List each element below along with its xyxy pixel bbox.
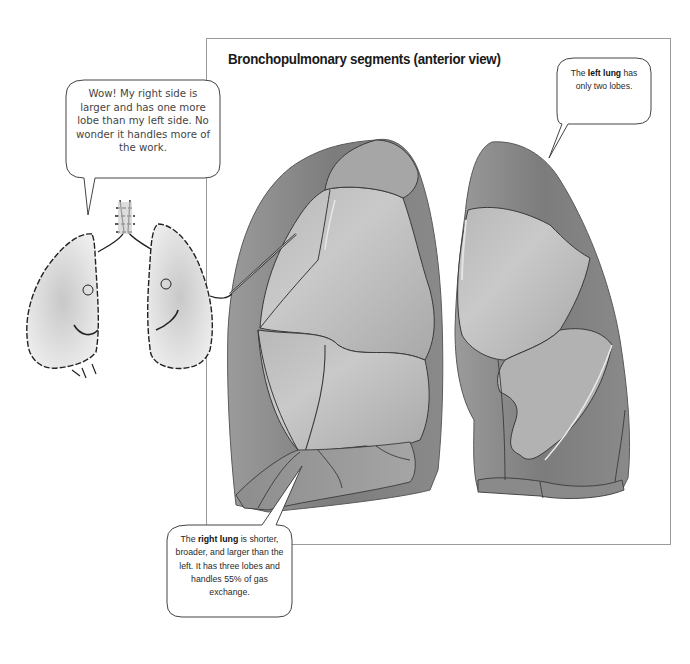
right-lung-callout-prefix: The [180, 533, 197, 544]
left-lung-illustration [455, 142, 630, 499]
left-lung-callout-text: The left lung has only two lobes. [564, 67, 643, 92]
right-lung-callout-bold: right lung [198, 533, 238, 544]
left-lung-callout-bold: left lung [588, 67, 621, 78]
right-lung-callout-text: The right lung is shorter, broader, and … [172, 532, 287, 598]
right-lung-illustration [228, 139, 443, 512]
cartoon-speech-text: Wow! My right side is larger and has one… [72, 87, 214, 155]
left-lung-callout-prefix: The [571, 67, 588, 78]
diagram-stage: Bronchopulmonary segments (anterior view… [0, 0, 690, 664]
